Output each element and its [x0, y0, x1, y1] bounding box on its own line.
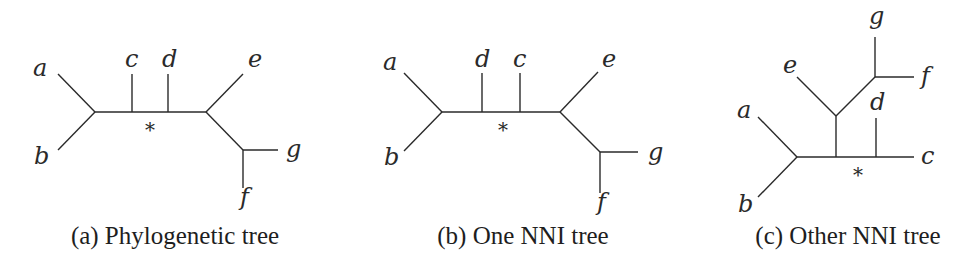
nni-edge-marker: * — [145, 118, 155, 142]
leaf-label-a: a — [737, 96, 751, 124]
edge-fg-internal — [560, 112, 600, 152]
leaf-label-f: f — [919, 62, 934, 90]
leaf-label-c: c — [513, 45, 526, 73]
leaf-label-c: c — [921, 142, 934, 170]
caption-a: (a) Phylogenetic tree — [71, 222, 279, 250]
leaf-label-a: a — [383, 48, 397, 76]
leaf-label-f: f — [595, 188, 610, 216]
leaf-label-d: d — [870, 88, 885, 116]
edge-fg-internal — [206, 112, 243, 150]
edge-b — [404, 112, 442, 151]
panel-b-one-nni-tree: a b d c e g f * (b) One NNI tree — [383, 45, 663, 250]
nni-edge-marker: * — [498, 118, 508, 142]
leaf-label-g: g — [869, 2, 884, 30]
leaf-label-a: a — [33, 54, 47, 82]
leaf-label-e: e — [602, 45, 616, 73]
caption-c: (c) Other NNI tree — [755, 222, 940, 250]
edge-e — [206, 74, 243, 112]
panel-a-phylogenetic-tree: a b c d e g f * (a) Phylogenetic tree — [33, 45, 301, 250]
leaf-label-d: d — [162, 45, 177, 73]
edge-a — [404, 73, 442, 112]
nni-edge-marker: * — [853, 163, 863, 187]
nni-figure: a b c d e g f * (a) Phylogenetic tree a … — [0, 0, 970, 265]
edge-e — [797, 77, 836, 116]
leaf-label-g: g — [648, 138, 663, 166]
leaf-label-c: c — [125, 45, 138, 73]
edge-e — [560, 72, 598, 112]
panel-c-other-nni-tree: a b e g f d c * (c) Other NNI tree — [737, 2, 941, 250]
leaf-label-b: b — [34, 142, 49, 170]
leaf-label-e: e — [783, 51, 797, 79]
leaf-label-b: b — [384, 143, 399, 171]
edge-b — [58, 112, 95, 150]
leaf-label-e: e — [248, 45, 262, 73]
edge-b — [758, 157, 797, 197]
caption-b: (b) One NNI tree — [437, 222, 608, 250]
leaf-label-f: f — [238, 183, 253, 211]
leaf-label-g: g — [286, 135, 301, 163]
leaf-label-b: b — [738, 190, 753, 218]
edge-a — [758, 117, 797, 157]
leaf-label-d: d — [475, 45, 490, 73]
edge-a — [58, 74, 95, 112]
